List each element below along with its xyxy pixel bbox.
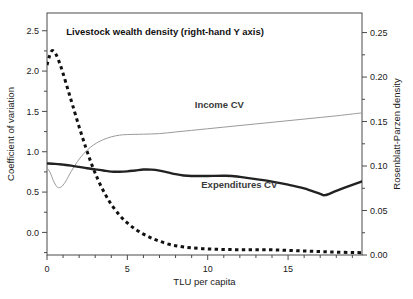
x-tick-label: 10: [203, 264, 213, 274]
y-tick-label: 0.5: [26, 187, 39, 197]
x-tick-label: 0: [44, 264, 49, 274]
livestock-wealth-density-label: Livestock wealth density (right-hand Y a…: [66, 26, 264, 37]
y-tick-label: 1.0: [26, 147, 39, 157]
y-axis-title: Coefficient of variation: [5, 87, 16, 181]
x-axis-title: TLU per capita: [173, 276, 236, 287]
y2-tick-label: 0.10: [370, 161, 388, 171]
x-tick-label: 5: [125, 264, 130, 274]
chart-background: [0, 0, 413, 299]
y2-tick-label: 0.00: [370, 250, 388, 260]
y-tick-label: 1.5: [26, 107, 39, 117]
y2-tick-label: 0.15: [370, 117, 388, 127]
y-tick-label: 2.0: [26, 66, 39, 76]
y2-axis-title: Rosenblatt-Parzen density: [391, 78, 402, 190]
chart-plot-area: 051015 0.00.51.01.52.02.5 0.000.050.100.…: [0, 0, 413, 299]
x-tick-label: 15: [283, 264, 293, 274]
income-cv-label: Income CV: [195, 99, 245, 110]
expenditures-cv-label: Expenditures CV: [201, 179, 278, 190]
y2-tick-label: 0.20: [370, 72, 388, 82]
y-tick-label: 2.5: [26, 26, 39, 36]
y2-tick-label: 0.05: [370, 206, 388, 216]
y-tick-label: 0.0: [26, 228, 39, 238]
y2-tick-label: 0.25: [370, 28, 388, 38]
chart-figure: 051015 0.00.51.01.52.02.5 0.000.050.100.…: [0, 0, 413, 299]
